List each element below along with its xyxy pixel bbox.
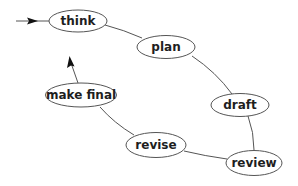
node-review[interactable]: review — [226, 151, 282, 176]
node-label: plan — [151, 40, 180, 54]
arrowhead-icon — [67, 56, 75, 68]
edge-think-to-plan — [105, 25, 142, 38]
node-draft[interactable]: draft — [211, 94, 269, 117]
node-label: make final — [46, 88, 116, 102]
edge-plan-to-draft — [192, 56, 232, 94]
edge-make-final-to-think — [71, 63, 78, 83]
node-label: review — [231, 156, 276, 170]
node-revise[interactable]: revise — [126, 133, 186, 158]
node-label: revise — [135, 138, 176, 152]
edge-draft-to-review — [248, 116, 254, 150]
node-label: draft — [223, 98, 257, 112]
node-make-final[interactable]: make final — [46, 83, 117, 107]
diagram-svg: think plan draft review revise make fina… — [0, 0, 298, 186]
edge-revise-to-make-final — [100, 107, 134, 135]
edge-review-to-revise — [184, 151, 227, 159]
node-plan[interactable]: plan — [137, 36, 195, 59]
node-label: think — [61, 14, 97, 28]
node-think[interactable]: think — [49, 10, 107, 32]
cycle-diagram: think plan draft review revise make fina… — [0, 0, 298, 186]
